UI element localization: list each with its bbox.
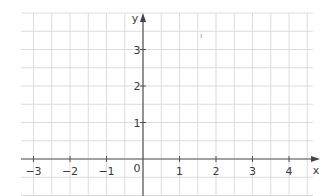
x-tick-label: 3	[249, 165, 256, 178]
stray-mark	[201, 34, 202, 38]
x-axis-arrow-icon	[311, 156, 320, 162]
x-tick-label: 4	[286, 165, 293, 178]
x-tick-label: 2	[213, 165, 220, 178]
x-tick-label: 1	[176, 165, 183, 178]
y-axis-arrow-icon	[140, 13, 146, 22]
y-tick-label: 2	[134, 80, 141, 93]
y-axis-label: y	[132, 12, 139, 25]
x-tick-label: −2	[62, 165, 78, 178]
coordinate-plane: −3 −2 −1 1 2 3 4 0 1 2 3 x y	[0, 0, 328, 196]
y-tick-label: 1	[134, 117, 141, 130]
y-tick-label: 3	[134, 44, 141, 57]
x-tick-label: −1	[98, 165, 114, 178]
x-tick-label: −3	[25, 165, 41, 178]
x-axis-label: x	[313, 164, 320, 177]
origin-label: 0	[134, 162, 141, 175]
